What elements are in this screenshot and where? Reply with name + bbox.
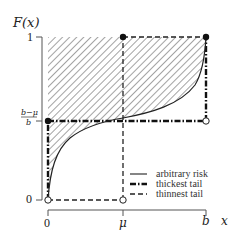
filled-marker — [120, 34, 126, 40]
filled-marker — [203, 34, 209, 40]
open-marker — [203, 118, 209, 124]
x-tick-0: 0 — [44, 216, 50, 230]
open-marker — [120, 197, 126, 203]
x-tick-mu: μ — [119, 216, 127, 230]
y-axis-label: F(x) — [12, 15, 40, 30]
y-tick-frac-numerator: b−μ — [21, 108, 38, 117]
legend-label-thinnest-tail: thinnest tail — [156, 188, 203, 199]
legend: arbitrary risk thickest tail thinnest ta… — [130, 168, 208, 199]
x-tick-b: b — [202, 214, 210, 228]
x-axis-label: x — [221, 214, 228, 228]
y-tick-0: 0 — [26, 192, 32, 206]
filled-marker — [45, 118, 51, 124]
y-axis — [36, 37, 42, 200]
y-tick-frac-denominator: b — [26, 118, 31, 127]
x-axis — [48, 210, 206, 216]
cdf-chart: F(x) 1 b−μ b 0 0 μ b x arbitrary risk th… — [0, 0, 243, 239]
open-marker — [45, 197, 51, 203]
y-tick-1: 1 — [27, 30, 33, 44]
